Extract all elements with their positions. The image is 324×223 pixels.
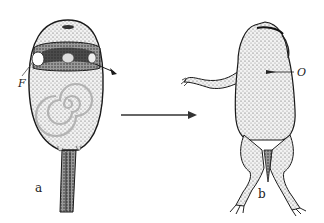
frog-body (235, 22, 295, 140)
panel-label-a: a (35, 181, 42, 195)
panel-label-b: b (258, 187, 266, 201)
tadpole-body (29, 20, 103, 150)
metamorphosis-diagram: F O a b (0, 0, 324, 223)
frog-forelimb (184, 70, 244, 89)
diagram-svg (0, 0, 324, 223)
transition-arrow (121, 111, 197, 119)
frog-illustration (181, 22, 306, 216)
forelimb-bud (32, 52, 44, 66)
frog-hindlimb-right (270, 135, 300, 210)
label-F: F (18, 77, 26, 90)
label-O: O (297, 66, 306, 79)
tadpole-tail (60, 150, 76, 212)
